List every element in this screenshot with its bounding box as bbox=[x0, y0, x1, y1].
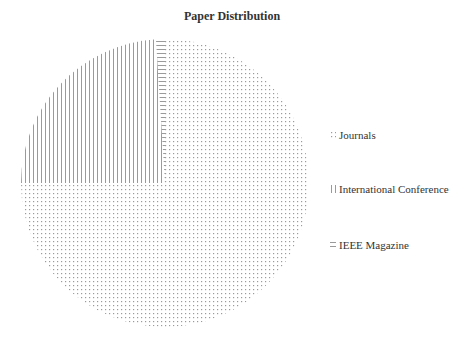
legend-item-international-conference[interactable]: International Conference bbox=[330, 183, 449, 195]
legend-item-ieee-magazine[interactable]: IEEE Magazine bbox=[330, 239, 409, 251]
pie-chart bbox=[0, 0, 464, 346]
horizontal-lines-pattern-icon bbox=[330, 241, 336, 249]
legend-label: Journals bbox=[339, 129, 376, 141]
legend-label: International Conference bbox=[339, 183, 449, 195]
vertical-lines-pattern-icon bbox=[330, 185, 336, 193]
dots-pattern-icon bbox=[330, 131, 336, 139]
legend-label: IEEE Magazine bbox=[339, 239, 409, 251]
pie-slice-international-conference[interactable] bbox=[21, 39, 165, 183]
legend-item-journals[interactable]: Journals bbox=[330, 129, 376, 141]
